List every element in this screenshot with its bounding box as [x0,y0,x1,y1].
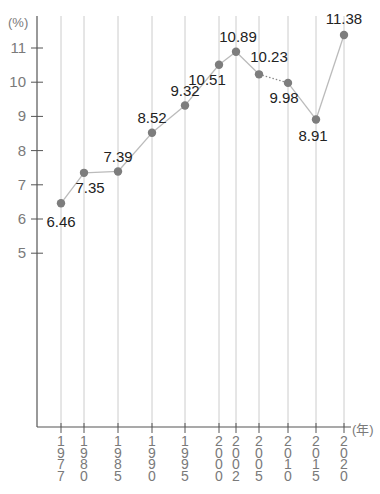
svg-text:0: 0 [80,468,88,484]
data-point-2002 [232,48,240,56]
svg-text:0: 0 [340,468,348,484]
data-label-2002: 10.89 [219,28,257,45]
x-tick-label-2005: 2005 [255,433,263,484]
data-point-1985 [114,167,122,175]
svg-text:5: 5 [181,468,189,484]
y-axis-ticks: 567891011 [9,39,43,261]
svg-text:5: 5 [114,468,122,484]
line-segment [84,171,118,172]
data-point-1995 [181,101,189,109]
y-tick-label-10: 10 [9,73,26,90]
x-tick-label-1995: 1995 [181,433,189,484]
x-tick-label-2015: 2015 [312,433,320,484]
x-tick-label-1980: 1980 [80,433,88,484]
y-tick-label-5: 5 [18,244,26,261]
x-tick-label-2002: 2002 [232,433,240,484]
line-segment [259,74,288,83]
data-label-1985: 7.39 [103,148,132,165]
x-tick-label-1985: 1985 [114,433,122,484]
y-tick-label-6: 6 [18,210,26,227]
data-label-2015: 8.91 [298,127,327,144]
data-label-1977: 6.46 [46,213,75,230]
data-point-1990 [148,129,156,137]
svg-text:0: 0 [284,468,292,484]
data-point-1980 [80,169,88,177]
data-point-1977 [57,199,65,207]
y-tick-label-7: 7 [18,176,26,193]
data-label-2000: 10.51 [188,71,226,88]
svg-text:0: 0 [215,468,223,484]
svg-text:7: 7 [57,468,65,484]
data-point-2015 [312,115,320,123]
x-tick-label-2000: 2000 [215,433,223,484]
data-label-1980: 7.35 [75,179,104,196]
y-axis-unit-label: (%) [8,15,28,30]
x-tick-label-2020: 2020 [340,433,348,484]
data-label-2010: 9.98 [269,89,298,106]
x-tick-label-2010: 2010 [284,433,292,484]
svg-text:0: 0 [148,468,156,484]
data-point-2010 [284,79,292,87]
x-axis-unit-label: (年) [352,422,374,437]
svg-text:5: 5 [255,468,263,484]
y-tick-label-8: 8 [18,142,26,159]
x-axis-ticks: 1977198019851990199520002002200520102015… [57,423,348,484]
data-label-2020: 11.38 [326,10,362,27]
x-tick-label-1977: 1977 [57,433,65,484]
data-point-2000 [215,61,223,69]
data-label-2005: 10.23 [250,48,288,65]
data-point-2020 [340,31,348,39]
y-tick-label-9: 9 [18,107,26,124]
data-label-1990: 8.52 [137,109,166,126]
svg-text:2: 2 [232,468,240,484]
line-chart: (%) (年) 567891011 1977198019851990199520… [0,0,380,494]
svg-text:5: 5 [312,468,320,484]
y-tick-label-11: 11 [10,39,26,56]
line-segment [316,35,344,119]
data-point-2005 [255,70,263,78]
x-tick-label-1990: 1990 [148,433,156,484]
